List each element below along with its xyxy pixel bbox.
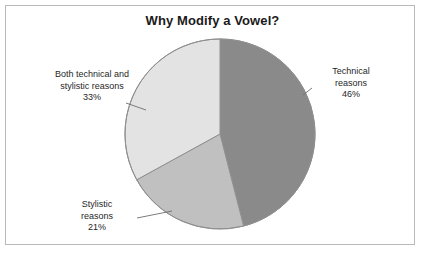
slice-label-both: Both technical and stylistic reasons 33% <box>36 69 148 104</box>
slice-label-stylistic-percent: 21% <box>62 222 132 234</box>
slice-label-technical-line1: Technical <box>316 66 386 78</box>
slice-label-technical-percent: 46% <box>316 89 386 101</box>
slice-label-both-line2: stylistic reasons <box>36 81 148 93</box>
slice-label-technical: Technical reasons 46% <box>316 66 386 101</box>
slice-label-technical-line2: reasons <box>316 78 386 90</box>
slice-label-stylistic-line2: reasons <box>62 211 132 223</box>
slice-label-both-percent: 33% <box>36 92 148 104</box>
slice-label-stylistic: Stylistic reasons 21% <box>62 199 132 234</box>
slice-label-stylistic-line1: Stylistic <box>62 199 132 211</box>
slice-label-both-line1: Both technical and <box>36 69 148 81</box>
leader-line-stylistic <box>137 211 172 218</box>
